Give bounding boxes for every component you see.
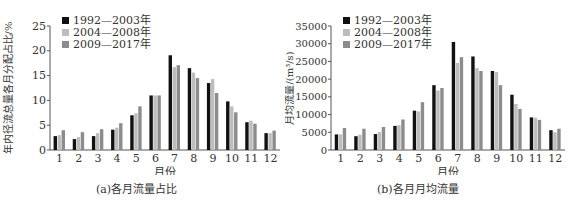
chart-panel-a: 0510152025123456789101112月份年内径流总量各月分配占比/… xyxy=(0,0,285,210)
y-tick-label: 25000 xyxy=(295,56,327,67)
bar xyxy=(358,135,361,150)
x-tick-label: 12 xyxy=(548,152,562,165)
bar xyxy=(456,63,459,150)
bar xyxy=(440,88,443,150)
x-tick-label: 11 xyxy=(529,152,543,165)
bar xyxy=(432,85,435,150)
bar xyxy=(96,133,99,150)
bar xyxy=(77,137,80,150)
bar xyxy=(530,117,533,150)
bar xyxy=(58,135,61,150)
bar xyxy=(452,42,455,150)
bar xyxy=(436,90,439,150)
y-tick-label: 30000 xyxy=(295,38,327,49)
y-tick-label: 20000 xyxy=(295,74,327,85)
x-tick-label: 3 xyxy=(376,152,383,165)
bar xyxy=(130,115,133,150)
bar xyxy=(382,127,385,150)
legend-swatch xyxy=(343,41,350,48)
bar xyxy=(413,111,416,150)
bar xyxy=(518,109,521,150)
bar xyxy=(169,55,172,150)
bar xyxy=(92,136,95,150)
chart-caption-a: (a)各月流量占比 xyxy=(96,180,177,196)
bar xyxy=(62,130,65,150)
x-tick-label: 7 xyxy=(171,152,178,165)
bar xyxy=(397,125,400,150)
bar xyxy=(272,131,275,150)
bar xyxy=(153,95,156,150)
x-tick-label: 2 xyxy=(75,152,82,165)
x-tick-label: 6 xyxy=(435,152,442,165)
bar xyxy=(249,121,252,150)
bar xyxy=(207,83,210,150)
y-axis-label: 月均流量/(m³/s) xyxy=(285,51,295,124)
bar xyxy=(538,120,541,150)
bar xyxy=(479,71,482,150)
bar xyxy=(499,85,502,150)
bar xyxy=(475,68,478,150)
legend-swatch xyxy=(343,17,350,24)
bar xyxy=(188,68,191,150)
legend-label: 1992—2003年 xyxy=(73,13,151,27)
bar xyxy=(374,134,377,150)
bar xyxy=(460,57,463,150)
y-tick-label: 10000 xyxy=(295,109,327,120)
legend-swatch xyxy=(62,41,69,48)
bar xyxy=(226,101,229,150)
y-tick-label: 25 xyxy=(32,20,46,33)
bar xyxy=(134,113,137,150)
bar xyxy=(339,134,342,150)
y-tick-label: 10 xyxy=(32,94,46,107)
bar xyxy=(495,72,498,150)
bar xyxy=(81,132,84,150)
bar xyxy=(211,79,214,150)
x-tick-label: 8 xyxy=(474,152,481,165)
x-tick-label: 4 xyxy=(396,152,403,165)
bar xyxy=(514,104,517,150)
chart-panel-b: 0500010000150002000025000300003500012345… xyxy=(285,0,569,210)
legend-label: 1992—2003年 xyxy=(354,13,432,27)
x-tick-label: 10 xyxy=(225,152,239,165)
legend-label: 2004—2008年 xyxy=(354,25,432,39)
bar xyxy=(73,139,76,150)
bar xyxy=(393,126,396,150)
legend-swatch xyxy=(62,29,69,36)
x-tick-label: 4 xyxy=(114,152,121,165)
x-tick-label: 9 xyxy=(493,152,500,165)
y-tick-label: 15 xyxy=(32,69,46,82)
bar xyxy=(253,124,256,150)
y-tick-label: 0 xyxy=(39,144,46,157)
bar xyxy=(354,136,357,150)
bar xyxy=(173,67,176,150)
legend-swatch xyxy=(62,17,69,24)
bar xyxy=(192,73,195,150)
bar xyxy=(119,123,122,150)
bar xyxy=(471,56,474,150)
x-tick-label: 7 xyxy=(454,152,461,165)
x-tick-label: 9 xyxy=(209,152,216,165)
x-tick-label: 10 xyxy=(509,152,523,165)
y-tick-label: 15000 xyxy=(295,91,327,102)
bar xyxy=(234,112,237,150)
x-tick-label: 6 xyxy=(152,152,159,165)
legend-label: 2009—2017年 xyxy=(73,37,151,51)
bar xyxy=(335,134,338,150)
legend-swatch xyxy=(343,29,350,36)
x-tick-label: 1 xyxy=(56,152,63,165)
x-tick-label: 2 xyxy=(357,152,364,165)
bar xyxy=(378,132,381,150)
bar xyxy=(215,93,218,150)
bar xyxy=(149,95,152,150)
bar xyxy=(138,106,141,150)
bar xyxy=(100,129,103,150)
y-tick-label: 35000 xyxy=(295,21,327,32)
bar xyxy=(196,78,199,150)
bar xyxy=(534,118,537,150)
x-tick-label: 5 xyxy=(415,152,422,165)
bar xyxy=(177,65,180,150)
y-tick-label: 5000 xyxy=(302,127,327,138)
x-axis-label: 月份 xyxy=(154,166,176,175)
bar xyxy=(491,71,494,150)
legend-label: 2004—2008年 xyxy=(73,25,151,39)
